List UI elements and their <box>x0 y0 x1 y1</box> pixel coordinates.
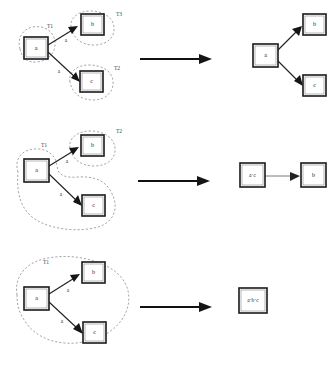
node-b-row2: b <box>81 135 104 156</box>
node-a-row2: a <box>24 159 49 182</box>
edge-label-a-to-b-row2: a <box>66 158 69 164</box>
svg-text:a·c: a·c <box>249 172 256 178</box>
row-1: T1 T3 T2 a a a b c <box>19 11 326 100</box>
transform-arrow-row2 <box>138 176 210 186</box>
node-a-row3: a <box>24 287 49 310</box>
result-node-c-row1: c <box>303 75 326 96</box>
result-node-ac-row2: a·c <box>240 163 265 187</box>
edge-a-to-c-arrowhead-row2 <box>73 195 82 206</box>
result-edge-ac-to-b-arrowhead-row2 <box>290 172 300 181</box>
edge-a-to-b-row2 <box>49 150 75 166</box>
group-label-t1-row1: T1 <box>47 23 53 29</box>
row-3: T1 a a a b c <box>17 256 267 343</box>
svg-text:a: a <box>35 166 38 173</box>
svg-text:b: b <box>91 20 94 27</box>
edge-a-to-b-row3 <box>49 277 76 294</box>
svg-text:b: b <box>92 268 95 275</box>
node-c-row3: c <box>83 322 106 343</box>
diagram-canvas: T1 T3 T2 a a a b c <box>0 0 334 369</box>
svg-text:a: a <box>35 294 38 301</box>
group-label-t1-row3: T1 <box>43 259 49 265</box>
svg-text:c: c <box>313 81 316 88</box>
edge-label-a-to-c-row3: a <box>61 318 64 324</box>
edge-a-to-b-arrowhead-row3 <box>70 274 80 282</box>
edge-label-a-to-c-row2: a <box>60 191 63 197</box>
result-node-abc-row3: a·b·c <box>239 288 267 313</box>
edge-a-to-c-arrowhead-row3 <box>73 323 83 334</box>
edge-label-a-to-c-row1: a <box>58 68 61 74</box>
svg-text:a·b·c: a·b·c <box>247 297 259 303</box>
edge-a-to-c-row3 <box>49 302 78 329</box>
svg-text:b: b <box>313 20 316 27</box>
edge-a-to-c-arrowhead-row1 <box>71 72 80 82</box>
svg-text:a: a <box>264 51 267 58</box>
result-node-b-row2: b <box>301 163 326 187</box>
result-edge-a-to-c-arrowhead-row1 <box>294 75 303 86</box>
group-label-t2-row2: T2 <box>116 128 122 134</box>
svg-text:c: c <box>93 328 96 335</box>
node-b-row1: b <box>81 14 104 35</box>
node-b-row3: b <box>82 262 105 283</box>
row-2: T1 T2 a a a b c <box>17 128 326 229</box>
edge-a-to-c-row2 <box>49 174 78 202</box>
edge-label-a-to-b-row1: a <box>65 37 68 43</box>
node-a-row1: a <box>24 37 48 59</box>
node-c-row1: c <box>80 71 103 92</box>
result-node-a-row1: a <box>253 44 278 67</box>
result-edge-a-to-b-row1 <box>277 31 297 51</box>
edge-a-to-b-row1 <box>48 29 74 45</box>
edge-label-a-to-b-row3: a <box>67 287 70 293</box>
group-label-t2-row1: T2 <box>114 65 120 71</box>
transform-arrow-row1 <box>140 54 212 64</box>
svg-text:b: b <box>91 141 94 148</box>
node-c-row2: c <box>82 195 105 216</box>
transform-arrow-row3 <box>140 302 212 312</box>
svg-text:b: b <box>312 171 315 178</box>
svg-text:c: c <box>92 201 95 208</box>
group-label-t3-row1: T3 <box>116 11 122 17</box>
edge-a-to-c-row1 <box>48 52 76 78</box>
svg-text:a: a <box>35 44 38 51</box>
svg-text:c: c <box>90 77 93 84</box>
result-edge-a-to-c-row1 <box>277 60 298 81</box>
result-node-b-row1: b <box>303 14 326 35</box>
group-label-t1-row2: T1 <box>41 142 47 148</box>
